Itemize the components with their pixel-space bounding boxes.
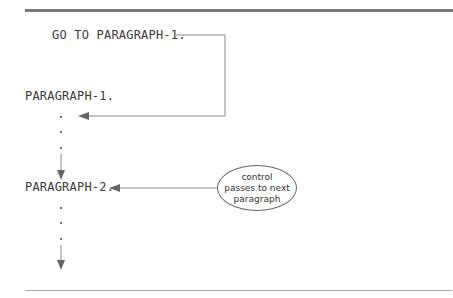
bottom-rule <box>25 290 452 291</box>
arrowhead-down-icon <box>57 260 65 270</box>
arrowhead-left-icon <box>78 112 89 120</box>
callout-line-2: passes to next <box>224 183 290 194</box>
callout-line-1: control <box>224 172 290 183</box>
callout-line-3: paragraph <box>224 194 290 205</box>
arrowhead-down-icon <box>57 170 65 180</box>
connector-lines <box>0 0 453 298</box>
diagram-canvas: GO TO PARAGRAPH-1. PARAGRAPH-1. PARAGRAP… <box>0 0 453 298</box>
callout-ellipse: control passes to next paragraph <box>217 165 297 211</box>
goto-jump-line <box>88 35 225 116</box>
arrowhead-left-icon <box>109 184 120 192</box>
